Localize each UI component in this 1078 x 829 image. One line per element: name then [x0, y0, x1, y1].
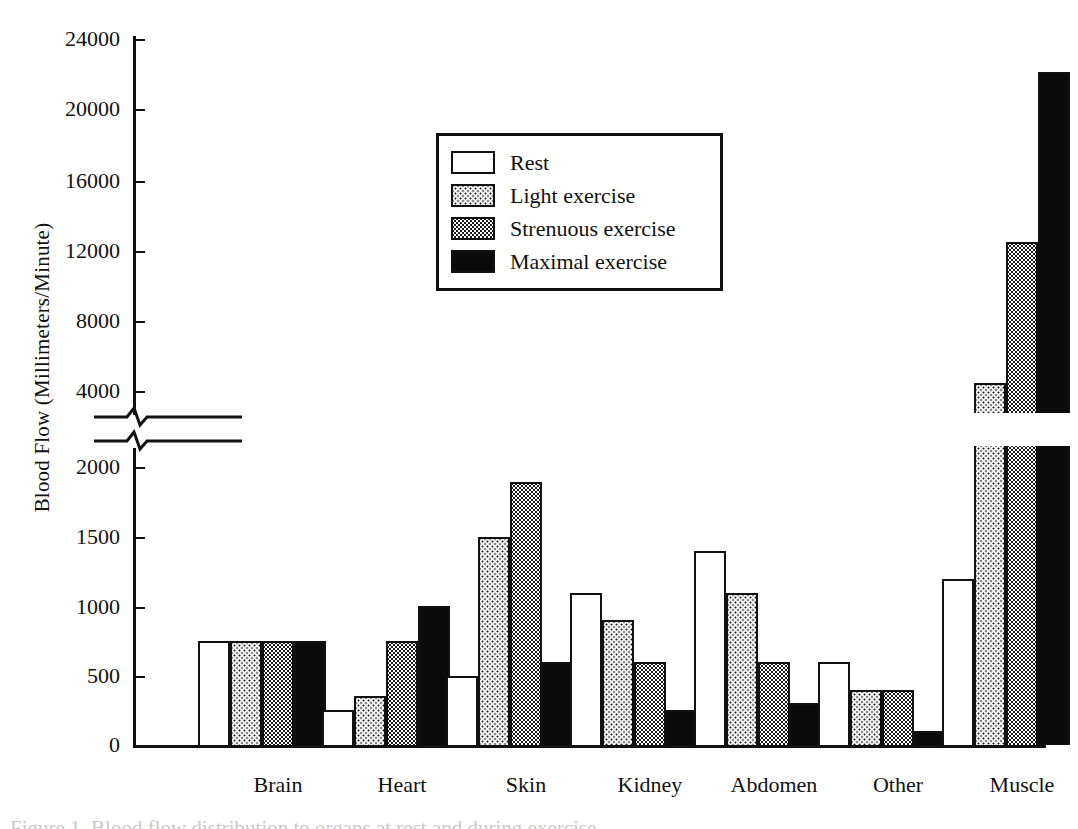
y-tick-label-12000: 12000	[0, 240, 120, 262]
legend-item-strenuous-exercise: Strenuous exercise	[451, 212, 704, 245]
legend-item-light-exercise: Light exercise	[451, 179, 704, 212]
legend-label-rest: Rest	[510, 152, 549, 174]
bar-brain-rest	[198, 641, 230, 745]
legend-item-rest: Rest	[451, 146, 704, 179]
bar-heart-rest	[322, 710, 354, 745]
legend: Rest Light exercise Strenuous exercise M…	[436, 133, 723, 291]
x-label-muscle: Muscle	[942, 772, 1078, 798]
bar-other-strenuous	[882, 690, 914, 745]
bar-kidney-light	[602, 620, 634, 745]
bar-skin-strenuous	[510, 482, 542, 745]
bar-abdomen-rest	[694, 551, 726, 745]
y-tick-label-1500: 1500	[0, 526, 120, 548]
legend-swatch-maximal-exercise-icon	[451, 250, 495, 273]
bar-abdomen-light	[726, 593, 758, 745]
legend-label-light-exercise: Light exercise	[510, 185, 635, 207]
x-axis-line	[133, 745, 1046, 748]
bar-heart-strenuous	[386, 641, 418, 745]
bar-muscle-light	[974, 446, 1006, 745]
bar-group-brain	[198, 641, 326, 745]
plot-area-lower	[136, 446, 1046, 745]
bar-group-other	[818, 662, 946, 745]
bar-brain-strenuous	[262, 641, 294, 745]
bar-group-muscle	[942, 446, 1070, 745]
legend-item-maximal-exercise: Maximal exercise	[451, 245, 704, 278]
bar-muscle-light-upper	[974, 383, 1006, 413]
y-tick-label-4000: 4000	[0, 380, 120, 402]
axis-break-squiggle-icon	[94, 404, 242, 430]
y-tick-label-24000: 24000	[0, 28, 120, 50]
bar-brain-light	[230, 641, 262, 745]
figure-caption-cropped: Figure 1. Blood flow distribution to org…	[10, 818, 1040, 829]
bar-muscle-strenuous-upper	[1006, 242, 1038, 413]
bar-group-kidney	[570, 593, 698, 745]
bar-muscle-maximal-upper	[1038, 72, 1070, 413]
bar-group-skin	[446, 482, 574, 745]
blood-flow-bar-chart: Blood Flow (Millimeters/Minute) 24000 20…	[0, 0, 1078, 829]
legend-label-maximal-exercise: Maximal exercise	[510, 251, 667, 273]
y-tick-label-16000: 16000	[0, 170, 120, 192]
bar-skin-light	[478, 537, 510, 745]
y-tick-label-0: 0	[0, 734, 120, 756]
legend-swatch-rest-icon	[451, 151, 495, 174]
bar-muscle-maximal	[1038, 446, 1070, 745]
bar-other-rest	[818, 662, 850, 745]
y-tick-label-20000: 20000	[0, 98, 120, 120]
legend-label-strenuous-exercise: Strenuous exercise	[510, 218, 676, 240]
bar-muscle-rest	[942, 579, 974, 745]
bar-kidney-strenuous	[634, 662, 666, 745]
bar-group-heart	[322, 606, 450, 745]
y-tick-label-500: 500	[0, 665, 120, 687]
bar-group-abdomen	[694, 551, 822, 745]
y-tick-label-1000: 1000	[0, 596, 120, 618]
axis-break-upper	[94, 404, 242, 430]
bar-heart-light	[354, 696, 386, 745]
y-tick-label-8000: 8000	[0, 310, 120, 332]
bar-abdomen-strenuous	[758, 662, 790, 745]
legend-swatch-light-exercise-icon	[451, 184, 495, 207]
bar-other-light	[850, 690, 882, 745]
bar-skin-rest	[446, 676, 478, 745]
legend-swatch-strenuous-exercise-icon	[451, 217, 495, 240]
bar-kidney-rest	[570, 593, 602, 745]
y-tick-label-2000: 2000	[0, 456, 120, 478]
bar-group-muscle-upper	[942, 36, 1070, 413]
bar-muscle-strenuous	[1006, 446, 1038, 745]
